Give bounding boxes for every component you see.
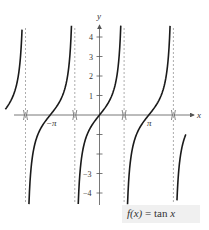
y-tick-label-2: 2 bbox=[89, 72, 93, 81]
y-tick-label-neg3: −3 bbox=[83, 170, 92, 179]
function-name: f(x) bbox=[127, 207, 142, 219]
curve-branch-left-partial bbox=[5, 30, 22, 110]
tan-graph: 4 3 2 1 −3 −4 −π π x y bbox=[0, 0, 209, 230]
function-variable: x bbox=[170, 207, 175, 219]
y-tick-label-neg4: −4 bbox=[83, 189, 92, 198]
curve-branch-right-partial bbox=[177, 134, 186, 200]
y-tick-label-1: 1 bbox=[89, 92, 93, 101]
x-tick-label-pi: π bbox=[147, 118, 152, 128]
function-equals: = tan bbox=[142, 207, 170, 219]
y-axis-label: y bbox=[96, 11, 101, 21]
y-tick-label-3: 3 bbox=[89, 53, 93, 62]
y-tick-label-4: 4 bbox=[89, 33, 93, 42]
x-axis-label: x bbox=[196, 110, 201, 120]
function-label: f(x) = tan x bbox=[127, 207, 175, 219]
x-tick-label-neg-pi: −π bbox=[46, 118, 57, 128]
